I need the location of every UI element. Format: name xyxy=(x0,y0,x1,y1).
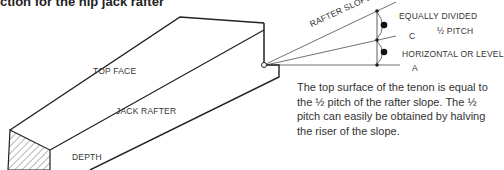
end-grain-face xyxy=(8,130,50,170)
description-text: The top surface of the tenon is equal to… xyxy=(297,80,492,138)
label-half-pitch: ½ PITCH xyxy=(437,26,473,36)
equal-mark-upper xyxy=(381,22,388,29)
label-horizontal: HORIZONTAL OR LEVEL xyxy=(402,49,504,59)
top-inner-edge xyxy=(50,30,264,150)
label-depth: DEPTH xyxy=(72,152,102,162)
pivot-point xyxy=(262,63,267,68)
label-point-c: C xyxy=(409,31,415,41)
tenon-step xyxy=(90,65,279,170)
equal-mark-lower xyxy=(381,49,388,56)
label-point-a: A xyxy=(412,63,418,73)
label-equally-divided: EQUALLY DIVIDED xyxy=(399,11,477,21)
label-jack-rafter: JACK RAFTER xyxy=(116,106,176,116)
label-top-face: TOP FACE xyxy=(93,66,136,76)
